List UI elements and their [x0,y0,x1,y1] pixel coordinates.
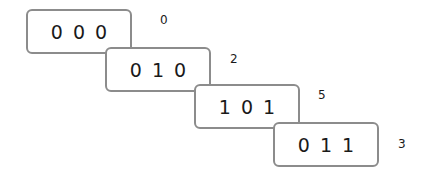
bit: 0 [95,21,107,43]
bit: 1 [219,96,231,118]
bit: 0 [51,21,63,43]
value-label-4: 3 [398,137,406,151]
value-label-3: 5 [318,88,326,102]
value-label-1: 0 [160,13,168,27]
bit: 1 [152,59,164,81]
bit: 1 [342,134,354,156]
bit: 1 [320,134,332,156]
bit: 1 [263,96,275,118]
bit-sequence-diagram: 0 0 0 0 0 1 0 2 1 0 1 5 0 1 1 3 [0,0,427,179]
bit-box-4: 0 1 1 [273,122,379,167]
bit: 0 [130,59,142,81]
bit: 0 [241,96,253,118]
bit: 0 [73,21,85,43]
bit: 0 [298,134,310,156]
value-label-2: 2 [230,52,238,66]
bit: 0 [174,59,186,81]
